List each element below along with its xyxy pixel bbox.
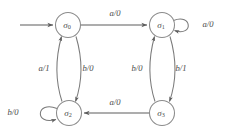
transition-s3-s1-edge <box>150 37 155 102</box>
edge-label-s0-s2: b/0 <box>83 63 95 73</box>
edge-label-s3-s2: a/0 <box>110 97 122 107</box>
fsm-diagram: σ0 σ1 σ2 σ3 a/0 b/0 a/1 a/0 b/1 b/0 a/0 … <box>0 0 230 136</box>
transition-s2-self-loop-edge <box>40 107 57 121</box>
transition-s0-s2-edge <box>76 37 82 102</box>
edge-label-s0-s1: a/0 <box>110 8 122 18</box>
edge-label-s2-self-loop: b/0 <box>8 107 20 117</box>
fsm-canvas: σ0 σ1 σ2 σ3 a/0 b/0 a/1 a/0 b/1 b/0 a/0 … <box>0 0 230 136</box>
transition-s1-self-loop-edge <box>174 19 189 32</box>
transition-s2-s0-edge <box>57 37 62 102</box>
edge-label-s3-s1: b/0 <box>132 63 144 73</box>
transition-s1-s3-edge <box>170 37 176 102</box>
edge-label-s2-s0: a/1 <box>39 63 50 73</box>
edge-label-s1-self-loop: a/0 <box>203 19 215 29</box>
edge-label-s1-s3: b/1 <box>176 63 187 73</box>
